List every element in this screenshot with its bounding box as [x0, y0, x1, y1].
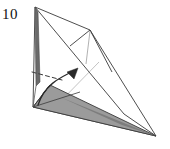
peak-centre-crease	[86, 31, 90, 64]
shaded-wedge	[33, 85, 156, 136]
origami-diagram-svg	[0, 0, 170, 149]
inner-peak-crease	[70, 30, 112, 72]
shape-layer	[33, 7, 156, 136]
fold-direction-arrow-head	[67, 68, 78, 79]
origami-step-figure: 10	[0, 0, 170, 149]
